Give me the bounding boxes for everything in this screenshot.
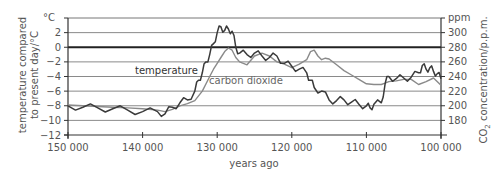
svg-text:−12: −12 [40,130,61,141]
svg-text:140 000: 140 000 [122,142,163,153]
svg-text:180: 180 [448,115,467,126]
x-axis-title: years ago [229,158,278,169]
right-unit-label: ppm [448,12,470,23]
svg-text:110 000: 110 000 [346,142,387,153]
gridlines [68,18,441,120]
co2-series-label: carbon dioxide [209,75,283,86]
svg-text:200: 200 [448,100,467,111]
svg-text:to present day/°C: to present day/°C [29,31,40,119]
svg-text:280: 280 [448,42,467,53]
svg-text:240: 240 [448,71,467,82]
y2-axis-title: CO2 concentration/p.p.m. [478,16,492,143]
svg-text:−10: −10 [40,115,61,126]
svg-text:220: 220 [448,86,467,97]
left-unit-label: °C [43,12,55,23]
svg-text:CO2 concentration/p.p.m.: CO2 concentration/p.p.m. [478,16,492,143]
svg-text:−4: −4 [46,71,61,82]
right-axis-ticks: 300280260240220200180 [441,18,467,126]
svg-text:temperature compared: temperature compared [17,17,28,133]
svg-text:−6: −6 [46,86,61,97]
svg-text:260: 260 [448,56,467,67]
svg-text:120 000: 120 000 [271,142,312,153]
svg-text:−8: −8 [46,100,61,111]
svg-text:150 000: 150 000 [47,142,88,153]
svg-text:100 000: 100 000 [420,142,461,153]
svg-text:130 000: 130 000 [197,142,238,153]
svg-text:300: 300 [448,27,467,38]
temperature-series-line [68,26,441,116]
co2-temperature-chart: 20−2−4−6−8−10−12 300280260240220200180 1… [0,0,498,181]
svg-text:−2: −2 [46,56,61,67]
y-axis-title: temperature compared to present day/°C [17,17,40,133]
left-axis-ticks: 20−2−4−6−8−10−12 [40,18,68,141]
temperature-series-label: temperature [135,65,198,76]
svg-text:2: 2 [55,27,61,38]
svg-text:0: 0 [55,42,61,53]
